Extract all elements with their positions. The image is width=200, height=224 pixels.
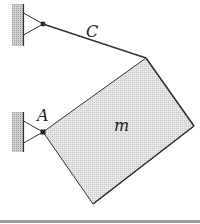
upper-wall-hatch bbox=[12, 4, 23, 46]
pin-a-icon bbox=[41, 130, 46, 135]
bottom-rule bbox=[0, 220, 200, 223]
upper-wall-support bbox=[12, 4, 45, 46]
pin-label: A bbox=[35, 106, 49, 125]
upper-bracket bbox=[24, 13, 44, 35]
mass-label: m bbox=[114, 116, 129, 135]
diagram-canvas: C m A bbox=[0, 0, 200, 224]
cable-label: C bbox=[86, 22, 98, 41]
lower-wall-hatch bbox=[12, 112, 23, 152]
